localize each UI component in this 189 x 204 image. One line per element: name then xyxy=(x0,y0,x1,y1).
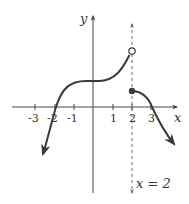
tick-label: 2 xyxy=(129,112,136,125)
tick-label: -3 xyxy=(28,112,39,125)
x-axis-label: x xyxy=(174,110,182,125)
open-circle-point xyxy=(129,48,135,54)
tick-label: 1 xyxy=(110,112,117,125)
tick-label: 3 xyxy=(148,112,155,125)
curve-left-branch xyxy=(43,55,130,154)
tick-label: -1 xyxy=(67,112,78,125)
graph: -3 -2 -1 1 2 3 x y x = 2 xyxy=(0,0,189,204)
filled-dot-point xyxy=(129,88,135,94)
y-axis-label: y xyxy=(79,11,88,26)
asymptote-label: x = 2 xyxy=(136,176,171,191)
